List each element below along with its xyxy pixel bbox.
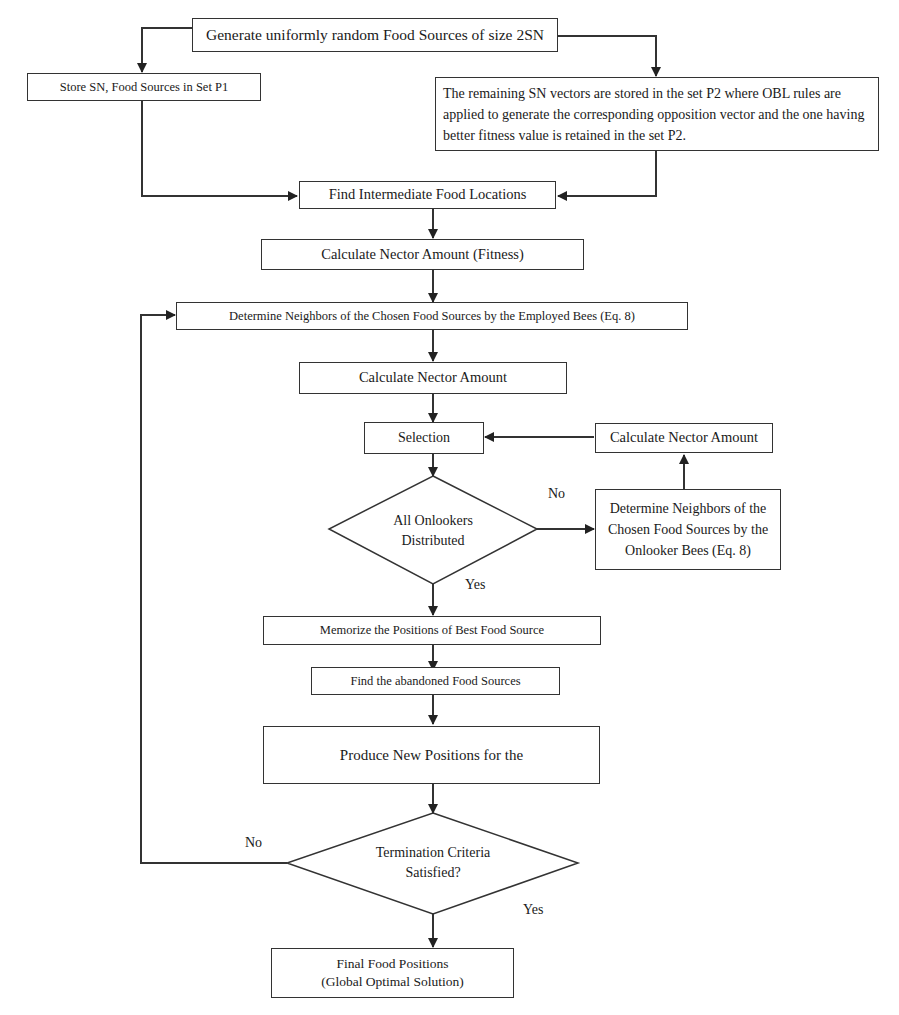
generate-food-sources-box: Generate uniformly random Food Sources o… (192, 18, 558, 52)
employed-bees-neighbors-box: Determine Neighbors of the Chosen Food S… (176, 302, 688, 330)
selection-box: Selection (364, 422, 484, 454)
selection-text: Selection (398, 429, 450, 448)
decision-termination-line2: Satisfied? (343, 863, 523, 883)
onlooker-bees-neighbors-box: Determine Neighbors of the Chosen Food S… (595, 489, 781, 570)
final-positions-line2: (Global Optimal Solution) (321, 973, 464, 991)
employed-bees-neighbors-text: Determine Neighbors of the Chosen Food S… (229, 308, 635, 325)
produce-positions-box: Produce New Positions for the (263, 726, 600, 784)
nectar-fitness-box: Calculate Nector Amount (Fitness) (261, 239, 584, 270)
store-p1-box: Store SN, Food Sources in Set P1 (27, 73, 261, 101)
store-p1-text: Store SN, Food Sources in Set P1 (60, 79, 228, 96)
memorize-best-box: Memorize the Positions of Best Food Sour… (263, 616, 601, 645)
decision-termination-line1: Termination Criteria (343, 843, 523, 863)
decision-onlookers-label: All Onlookers Distributed (360, 511, 506, 552)
abandoned-sources-text: Find the abandoned Food Sources (350, 673, 520, 690)
final-positions-line1: Final Food Positions (337, 955, 449, 973)
onlooker-bees-neighbors-text: Determine Neighbors of the Chosen Food S… (602, 498, 774, 561)
edge-label-onlookers-yes: Yes (465, 577, 485, 593)
decision-onlookers-line1: All Onlookers (360, 511, 506, 531)
store-p2-text: The remaining SN vectors are stored in t… (443, 83, 871, 146)
nectar-fitness-text: Calculate Nector Amount (Fitness) (321, 245, 524, 265)
store-p2-box: The remaining SN vectors are stored in t… (435, 77, 879, 151)
edge-label-onlookers-no: No (548, 486, 565, 502)
decision-onlookers-line2: Distributed (360, 531, 506, 551)
decision-termination-label: Termination Criteria Satisfied? (343, 843, 523, 884)
final-positions-box: Final Food Positions (Global Optimal Sol… (271, 948, 514, 998)
nectar-amount-box-1: Calculate Nector Amount (299, 362, 567, 394)
nectar-amount-text-2: Calculate Nector Amount (610, 428, 758, 448)
abandoned-sources-box: Find the abandoned Food Sources (311, 667, 560, 695)
memorize-best-text: Memorize the Positions of Best Food Sour… (320, 622, 544, 639)
generate-food-sources-text: Generate uniformly random Food Sources o… (206, 25, 544, 46)
produce-positions-text: Produce New Positions for the (340, 745, 523, 765)
nectar-amount-text-1: Calculate Nector Amount (359, 368, 507, 388)
edge-label-termination-yes: Yes (523, 902, 543, 918)
intermediate-locations-box: Find Intermediate Food Locations (299, 181, 556, 209)
edge-label-termination-no: No (245, 835, 262, 851)
intermediate-locations-text: Find Intermediate Food Locations (329, 185, 527, 205)
nectar-amount-box-2: Calculate Nector Amount (595, 423, 773, 453)
